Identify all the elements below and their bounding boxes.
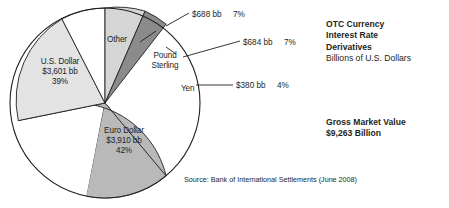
chart-canvas: U.S. Dollar $3,601 bb 39% Euro Dollar $3… xyxy=(0,0,449,208)
callout-other-percent: 7% xyxy=(233,10,245,20)
callout-pound-sterling-amount: $684 bb xyxy=(243,38,273,48)
slice-label-pound-sterling-line2: Sterling xyxy=(142,61,188,71)
slice-label-yen: Yen xyxy=(181,84,207,94)
slice-label-us-dollar-pct: 39% xyxy=(22,77,98,87)
slice-label-other: Other xyxy=(107,35,147,45)
callout-yen-amount: $380 bb xyxy=(236,81,266,91)
slice-label-euro-dollar-value: $3,910 bb xyxy=(86,136,162,146)
slice-label-euro-dollar-name: Euro Dollar xyxy=(86,126,162,136)
leader-line-pound-sterling xyxy=(183,41,240,57)
slice-label-us-dollar: U.S. Dollar $3,601 bb 39% xyxy=(22,57,98,88)
chart-title-line3: Derivatives xyxy=(326,42,444,53)
gross-market-value-amount: $9,263 Billion xyxy=(326,128,449,139)
callout-other-amount: $688 bb xyxy=(192,10,222,20)
callout-pound-sterling: $684 bb 7% xyxy=(243,38,296,48)
slice-label-yen-name: Yen xyxy=(181,84,207,94)
chart-title-line1: OTC Currency xyxy=(326,19,444,30)
callout-pound-sterling-percent: 7% xyxy=(284,38,296,48)
gross-market-value-block: Gross Market Value $9,263 Billion xyxy=(326,117,449,140)
leader-line-other xyxy=(166,13,189,26)
callout-yen-percent: 4% xyxy=(277,81,289,91)
slice-label-us-dollar-name: U.S. Dollar xyxy=(22,57,98,67)
slice-label-euro-dollar-pct: 42% xyxy=(86,146,162,156)
slice-label-other-name: Other xyxy=(107,35,147,45)
slice-label-euro-dollar: Euro Dollar $3,910 bb 42% xyxy=(86,126,162,157)
source-note: Source: Bank of International Settlement… xyxy=(184,175,357,184)
slice-label-pound-sterling: Pound Sterling xyxy=(142,51,188,71)
chart-title-block: OTC Currency Interest Rate Derivatives B… xyxy=(326,19,444,65)
callout-other: $688 bb 7% xyxy=(192,10,245,20)
chart-title-line2: Interest Rate xyxy=(326,30,444,41)
slice-label-us-dollar-value: $3,601 bb xyxy=(22,67,98,77)
chart-subtitle: Billions of U.S. Dollars xyxy=(326,53,444,64)
gross-market-value-label: Gross Market Value xyxy=(326,117,449,128)
callout-yen: $380 bb 4% xyxy=(236,81,289,91)
slice-label-pound-sterling-line1: Pound xyxy=(142,51,188,61)
